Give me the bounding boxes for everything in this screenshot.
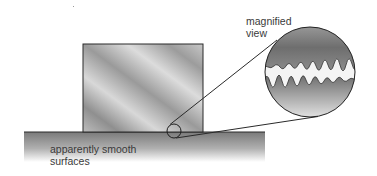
label-line: surfaces [50, 155, 136, 167]
apparently-smooth-surfaces-label: apparently smooth surfaces [50, 143, 136, 167]
speck [73, 6, 74, 7]
label-line: apparently smooth [50, 143, 136, 155]
label-line: view [246, 27, 292, 39]
magnified-view-circle [260, 25, 360, 119]
block [83, 44, 203, 132]
magnified-view-label: magnified view [246, 15, 292, 39]
label-line: magnified [246, 15, 292, 27]
